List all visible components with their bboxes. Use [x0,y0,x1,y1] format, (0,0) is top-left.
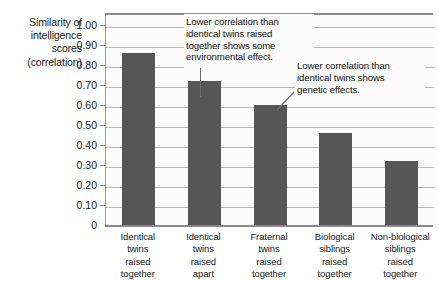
chart-figure: Similarity of intelligence scores (corre… [0,0,439,281]
annotation-2-leader-line [0,0,439,281]
